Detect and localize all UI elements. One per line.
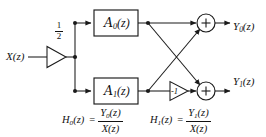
gain-neg1-label: -1 xyxy=(171,87,178,96)
output-y1-label: Y1(z) xyxy=(233,76,254,89)
equation-h1-fraction: Y1(z) X(z) xyxy=(186,107,211,134)
equation-h0-fraction: Y0(z) X(z) xyxy=(98,107,123,134)
wire-a0-cross-to-adder-bottom xyxy=(148,23,200,85)
block-a1-script: A xyxy=(104,83,113,98)
block-a0-label: A0(z) xyxy=(104,17,130,31)
equation-h1-lhs: H1(z) xyxy=(150,115,172,127)
junction-dot-bottom-corner xyxy=(73,89,77,93)
input-label: X(z) xyxy=(6,51,24,62)
figure-canvas: X(z) 1 2 A0(z) A1(z) -1 Y0(z) Y1(z) H0(z… xyxy=(0,0,266,137)
equation-h0-numerator: Y0(z) xyxy=(98,107,123,121)
block-a1-arg: (z) xyxy=(117,84,130,98)
output-y1-arg: (z) xyxy=(243,75,255,87)
block-a0-arg: (z) xyxy=(117,16,130,30)
equation-h0-denominator: X(z) xyxy=(100,122,122,134)
equation-h1-equals: = xyxy=(177,115,183,126)
input-label-arg: (z) xyxy=(13,50,25,62)
wire-a1-cross-to-adder-top xyxy=(148,29,200,91)
equation-h0: H0(z) = Y0(z) X(z) xyxy=(62,107,123,134)
block-a1-label: A1(z) xyxy=(104,85,130,99)
output-y0-label: Y0(z) xyxy=(233,21,254,34)
gain-half-label: 1 2 xyxy=(52,21,66,42)
signal-flow-diagram xyxy=(0,0,266,137)
equation-h1-denominator: X(z) xyxy=(188,122,210,134)
block-a0-script: A xyxy=(104,15,113,30)
output-y0-arg: (z) xyxy=(243,20,255,32)
junction-dot-split xyxy=(73,55,77,59)
gain-half-numerator: 1 xyxy=(52,21,66,30)
junction-dot-a1-branch xyxy=(146,89,150,93)
junction-dot-top-corner xyxy=(73,21,77,25)
equation-h1-numerator: Y1(z) xyxy=(186,107,211,121)
gain-half-denominator: 2 xyxy=(52,32,66,41)
junction-dot-a0-branch xyxy=(146,21,150,25)
gain-half-triangle xyxy=(47,47,66,68)
equation-h0-lhs: H0(z) xyxy=(62,115,84,127)
equation-h1: H1(z) = Y1(z) X(z) xyxy=(150,107,211,134)
equation-h0-equals: = xyxy=(89,115,95,126)
input-label-base: X xyxy=(6,50,13,62)
